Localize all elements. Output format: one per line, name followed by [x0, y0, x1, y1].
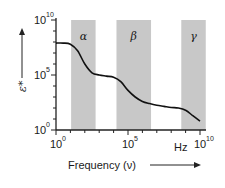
region-label: β: [130, 30, 137, 43]
relaxation-chart: αβγ 10010510101001051010HzFrequency (ν)ε…: [0, 0, 225, 188]
x-tick-exponent: 5: [134, 135, 138, 142]
y-axis-title: ε*: [16, 80, 29, 92]
y-tick-label: 10: [34, 69, 46, 81]
x-tick-label: 10: [50, 138, 62, 150]
y-tick-exponent: 0: [46, 121, 50, 128]
x-tick-label: 10: [122, 138, 134, 150]
arrow-up-icon: [19, 28, 25, 35]
region-label: α: [80, 30, 88, 43]
y-tick-exponent: 10: [46, 11, 54, 18]
x-tick-exponent: 10: [206, 135, 214, 142]
arrow-right-icon: [194, 162, 201, 168]
region-label: γ: [190, 30, 197, 43]
y-tick-label: 10: [34, 14, 46, 26]
x-tick-exponent: 0: [62, 135, 66, 142]
relaxation-regions: αβγ: [71, 20, 206, 130]
y-tick-label: 10: [34, 124, 46, 136]
y-tick-exponent: 5: [46, 66, 50, 73]
x-tick-label: 10: [194, 138, 206, 150]
x-axis-title: Frequency (ν): [68, 159, 136, 171]
x-unit: Hz: [174, 141, 187, 153]
